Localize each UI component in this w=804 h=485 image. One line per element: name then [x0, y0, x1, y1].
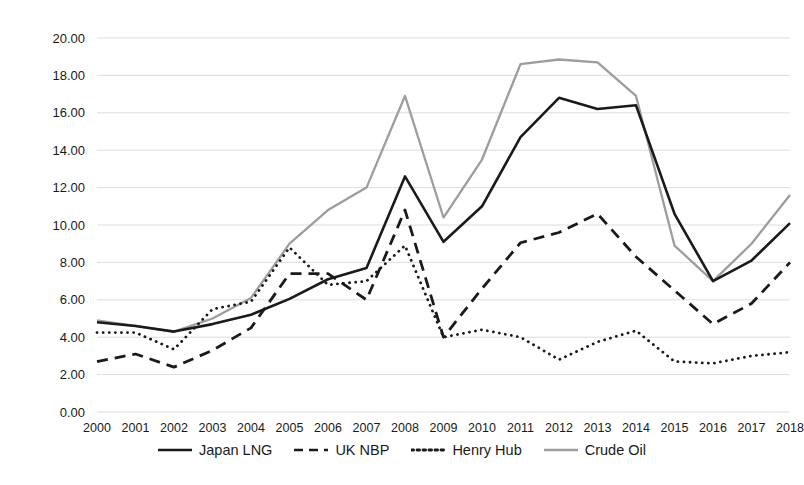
y-tick-label: 0.00	[60, 405, 85, 420]
x-tick-label: 2009	[430, 421, 458, 435]
x-tick-label: 2008	[391, 421, 419, 435]
y-tick-labels-group: 0.002.004.006.008.0010.0012.0014.0016.00…	[52, 31, 85, 420]
line-chart: $MMbtu 0.002.004.006.008.0010.0012.0014.…	[0, 0, 804, 485]
chart-legend: Japan LNG UK NBP Henry Hub Crude Oil	[0, 442, 804, 458]
x-tick-label: 2000	[83, 421, 111, 435]
legend-item-japan-lng[interactable]: Japan LNG	[158, 442, 272, 458]
x-tick-label: 2010	[468, 421, 496, 435]
x-tick-label: 2007	[353, 421, 381, 435]
x-tick-label: 2017	[738, 421, 766, 435]
legend-label: Henry Hub	[452, 442, 521, 458]
x-tick-label: 2004	[237, 421, 265, 435]
x-tick-labels-group: 2000200120022003200420052006200720082009…	[83, 421, 804, 435]
x-tick-label: 2012	[545, 421, 573, 435]
x-tick-label: 2001	[122, 421, 150, 435]
y-tick-label: 18.00	[52, 68, 85, 83]
legend-label: UK NBP	[335, 442, 389, 458]
x-tick-label: 2018	[776, 421, 804, 435]
x-tick-label: 2013	[584, 421, 612, 435]
y-tick-label: 4.00	[60, 330, 85, 345]
y-tick-label: 16.00	[52, 105, 85, 120]
x-tick-label: 2002	[160, 421, 188, 435]
legend-item-crude-oil[interactable]: Crude Oil	[544, 442, 646, 458]
series-lines-group	[97, 60, 790, 368]
x-tick-label: 2003	[199, 421, 227, 435]
x-tick-label: 2016	[699, 421, 727, 435]
series-line-crude-oil	[97, 60, 790, 332]
y-tick-label: 2.00	[60, 367, 85, 382]
x-tick-label: 2011	[507, 421, 534, 435]
legend-item-henry-hub[interactable]: Henry Hub	[411, 442, 521, 458]
y-tick-label: 8.00	[60, 255, 85, 270]
x-tick-label: 2005	[276, 421, 304, 435]
legend-item-uk-nbp[interactable]: UK NBP	[294, 442, 389, 458]
chart-plot-area: 0.002.004.006.008.0010.0012.0014.0016.00…	[0, 0, 804, 485]
dotted-line-icon	[411, 443, 445, 457]
x-tick-label: 2015	[661, 421, 689, 435]
series-line-henry-hub	[97, 246, 790, 364]
dashed-line-icon	[294, 443, 328, 457]
y-tick-label: 20.00	[52, 31, 85, 46]
x-tick-label: 2014	[622, 421, 650, 435]
legend-label: Japan LNG	[199, 442, 272, 458]
legend-label: Crude Oil	[585, 442, 646, 458]
y-tick-label: 6.00	[60, 292, 85, 307]
y-tick-label: 14.00	[52, 143, 85, 158]
y-tick-label: 10.00	[52, 218, 85, 233]
x-tick-label: 2006	[314, 421, 342, 435]
y-tick-label: 12.00	[52, 180, 85, 195]
gray-solid-line-icon	[544, 443, 578, 457]
solid-line-icon	[158, 443, 192, 457]
